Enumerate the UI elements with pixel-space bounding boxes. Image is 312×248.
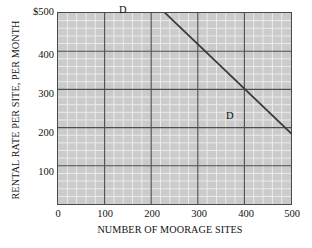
x-axis-title: NUMBER OF MOORAGE SITES: [40, 224, 300, 236]
plot-area: [57, 12, 292, 205]
x-tick-label-100: 100: [85, 208, 125, 220]
x-tick-label-0: 0: [38, 208, 78, 220]
x-tick-label-200: 200: [132, 208, 172, 220]
y-tick-label-500: $500: [18, 7, 54, 18]
x-tick-label-500: 500: [272, 208, 312, 220]
demand-curve-figure: RENTAL RATE PER SITE, PER MONTH $500 400…: [0, 0, 312, 248]
x-tick-label-400: 400: [226, 208, 266, 220]
y-tick-label-300: 300: [18, 89, 54, 100]
y-tick-label-200: 200: [18, 128, 54, 139]
y-tick-label-100: 100: [18, 167, 54, 178]
x-tick-label-300: 300: [179, 208, 219, 220]
demand-curve-line: [58, 13, 291, 204]
x-axis-tick-labels: 0 100 200 300 400 500: [0, 208, 312, 222]
y-tick-label-400: 400: [18, 50, 54, 61]
curve-label-demand-bottom: D: [226, 111, 234, 122]
curve-label-demand-top: D: [119, 5, 127, 16]
